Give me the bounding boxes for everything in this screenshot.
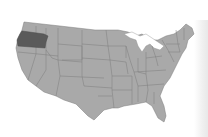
- us-map: [0, 0, 208, 137]
